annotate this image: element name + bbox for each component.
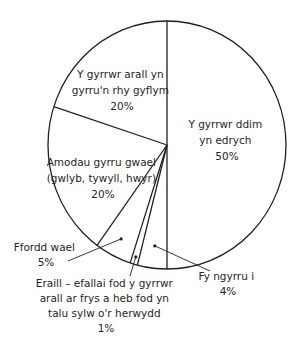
label-bad-road: Ffordd wael 5% — [14, 241, 79, 268]
label-my-driving: Fy ngyrru i 4% — [199, 270, 258, 297]
label-other: Eraill – efallai fod y gyrrwr arall ar f… — [36, 277, 176, 334]
leader-dot — [153, 244, 156, 247]
pie-chart: Y gyrrwr ddim yn edrych 50% Fy ngyrru i … — [0, 0, 299, 347]
